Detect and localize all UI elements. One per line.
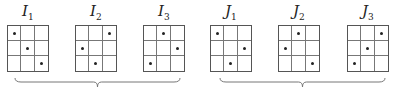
grid-cell (35, 41, 48, 56)
grid-cell (103, 26, 116, 41)
grid-cell (348, 41, 361, 56)
matrix-label: I3 (158, 2, 170, 22)
grid-cell (171, 26, 184, 41)
dot (162, 32, 165, 35)
grid-cell (306, 56, 319, 71)
matrix-label: I2 (90, 2, 102, 22)
grid-cell (279, 56, 292, 71)
grid-cell (144, 26, 157, 41)
grid-cell (76, 26, 89, 41)
grid-cell (144, 41, 157, 56)
dot (243, 47, 246, 50)
dot (40, 62, 43, 65)
grid-cell (279, 26, 292, 41)
matrix-label: I1 (22, 2, 34, 22)
grid-cell (157, 41, 170, 56)
grid-cell (279, 41, 292, 56)
grid-cell (348, 26, 361, 41)
dot (13, 32, 16, 35)
grid-cell (8, 41, 21, 56)
dot (311, 62, 314, 65)
grid-cell (35, 56, 48, 71)
matrix-grid-I3 (143, 25, 185, 72)
dot (297, 32, 300, 35)
grid-cell (306, 26, 319, 41)
grid-cell (211, 41, 224, 56)
grid-cell (211, 26, 224, 41)
grid-cell (8, 26, 21, 41)
grid-cell (375, 26, 388, 41)
grid-cell (306, 41, 319, 56)
grid-cell (292, 41, 305, 56)
grid-cell (224, 41, 237, 56)
grid-cell (21, 56, 34, 71)
grid-cell (35, 26, 48, 41)
grid-cell (21, 26, 34, 41)
dot (380, 32, 383, 35)
grid-cell (171, 41, 184, 56)
matrix-grid-J1 (210, 25, 252, 72)
matrix-grid-J2 (278, 25, 320, 72)
grid-cell (238, 41, 251, 56)
grid-cell (375, 41, 388, 56)
grid-cell (157, 56, 170, 71)
grid-cell (89, 26, 102, 41)
dot (353, 62, 356, 65)
grid-cell (238, 26, 251, 41)
matrix-grid-J3 (347, 25, 389, 72)
grid-cell (348, 56, 361, 71)
grid-cell (89, 41, 102, 56)
grid-cell (361, 41, 374, 56)
dot (229, 62, 232, 65)
grid-cell (238, 56, 251, 71)
grid-cell (21, 41, 34, 56)
matrix-grid-I1 (7, 25, 49, 72)
grid-cell (103, 56, 116, 71)
dot (284, 47, 287, 50)
dot (216, 32, 219, 35)
matrix-label: J2 (293, 2, 305, 22)
grid-cell (224, 26, 237, 41)
grid-cell (171, 56, 184, 71)
grid-cell (76, 56, 89, 71)
grid-cell (89, 56, 102, 71)
dot (366, 47, 369, 50)
matrix-label: J1 (225, 2, 237, 22)
grid-cell (8, 56, 21, 71)
grid-cell (157, 26, 170, 41)
dot (108, 32, 111, 35)
group-braces (0, 76, 395, 90)
dot (94, 62, 97, 65)
grid-cell (76, 41, 89, 56)
grid-cell (211, 56, 224, 71)
dot (149, 62, 152, 65)
grid-cell (224, 56, 237, 71)
dot (176, 47, 179, 50)
grid-cell (361, 26, 374, 41)
grid-cell (361, 56, 374, 71)
grid-cell (292, 56, 305, 71)
grid-cell (103, 41, 116, 56)
matrix-grid-I2 (75, 25, 117, 72)
dot (81, 47, 84, 50)
grid-cell (292, 26, 305, 41)
grid-cell (375, 56, 388, 71)
matrix-label: J3 (362, 2, 374, 22)
dot (26, 47, 29, 50)
grid-cell (144, 56, 157, 71)
